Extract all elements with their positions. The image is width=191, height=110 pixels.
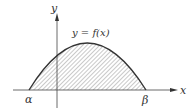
x-axis-label: x (180, 84, 187, 97)
area-under-curve-diagram: y x y = f(x) α β (0, 0, 191, 110)
x-axis-arrow-icon (170, 88, 178, 92)
alpha-label: α (25, 93, 33, 106)
y-axis-label: y (50, 2, 58, 15)
curve-label: y = f(x) (71, 27, 110, 38)
beta-label: β (141, 94, 148, 107)
